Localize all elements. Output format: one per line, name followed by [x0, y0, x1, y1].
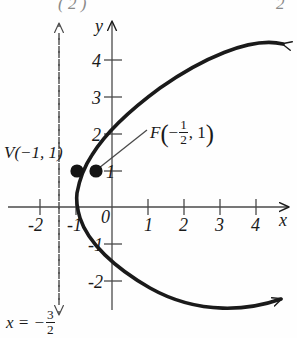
- y-tick-label-2: 2: [92, 126, 101, 144]
- vertex-label-text: V(−1, 1): [4, 143, 63, 162]
- parabola-figure: ( 2 ) 2: [0, 0, 297, 338]
- y-tick-label--2: -2: [88, 273, 103, 291]
- x-tick-label-4: 4: [251, 216, 260, 234]
- y-axis-label: y: [95, 17, 103, 35]
- y-tick-label-1: 1: [106, 163, 115, 181]
- focus-paren-close: ): [206, 120, 214, 147]
- x-tick-label--2: -2: [28, 216, 43, 234]
- y-tick-label-3: 3: [92, 89, 101, 107]
- origin-label: 0: [101, 208, 110, 226]
- x-tick-label-2: 2: [179, 216, 188, 234]
- x-tick-label--1: -1: [67, 216, 82, 234]
- x-axis-label: x: [279, 211, 287, 229]
- y-tick-label-4: 4: [92, 52, 101, 70]
- directrix-prefix: x = −: [6, 313, 45, 332]
- focus-rest: , 1: [189, 123, 206, 142]
- directrix-label: x = −32: [6, 308, 56, 336]
- vertex-point: [70, 164, 83, 177]
- focus-minus: −: [169, 123, 179, 142]
- graph-canvas: [0, 0, 297, 338]
- focus-fraction-denominator: 2: [179, 133, 188, 147]
- directrix-fraction: 32: [46, 308, 55, 336]
- x-tick-label-1: 1: [144, 216, 153, 234]
- focus-label-prefix: F: [150, 123, 160, 142]
- focus-point: [89, 164, 102, 177]
- focus-paren-open: (: [160, 120, 168, 147]
- directrix-fraction-denominator: 2: [46, 323, 55, 337]
- vertex-label: V(−1, 1): [4, 144, 63, 161]
- focus-label: F(−12, 1): [150, 118, 214, 147]
- focus-fraction: 12: [179, 118, 188, 146]
- x-tick-label-3: 3: [215, 216, 224, 234]
- x-axis: [8, 199, 288, 215]
- y-tick-label--1: -1: [88, 236, 103, 254]
- directrix-fraction-numerator: 3: [46, 308, 55, 323]
- focus-fraction-numerator: 1: [179, 118, 188, 133]
